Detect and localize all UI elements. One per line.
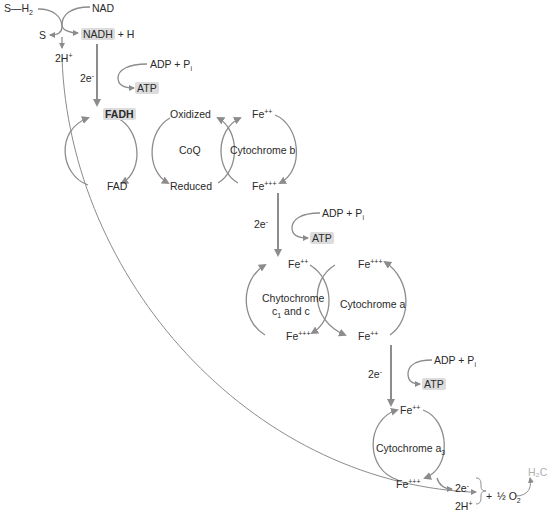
- nadh-label: NADH + H: [81, 28, 134, 40]
- cyt-b-bottom-label: Fe+++: [252, 180, 277, 192]
- fadh-label: FADH: [103, 108, 136, 120]
- adp-label-1: ADP + Pi: [150, 58, 192, 70]
- coq-oxidized-label: Oxidized: [170, 108, 211, 120]
- final-electrons-label: 2e-: [455, 482, 469, 494]
- cyt-a3-bottom-label: Fe+++: [396, 478, 421, 490]
- cyt-c-bottom-label: Fe+++: [286, 330, 311, 342]
- atp-label-3: ATP: [422, 378, 446, 390]
- electrons-label-1: 2e-: [80, 72, 94, 84]
- cyt-a3-label: Cytochrome a3: [376, 442, 445, 454]
- cyt-b-top-label: Fe++: [252, 108, 272, 120]
- substrate-label: S—H2: [4, 2, 33, 14]
- cyt-a-label: Cytochrome a: [340, 298, 405, 310]
- cyt-a-bottom-label: Fe++: [358, 330, 378, 342]
- cyt-b-label: Cytochrome b: [230, 144, 295, 156]
- adp-label-2: ADP + Pi: [322, 207, 364, 219]
- electrons-label-3: 2e-: [368, 368, 382, 380]
- coq-reduced-label: Reduced: [170, 180, 212, 192]
- cyt-c-top-label: Fe++: [288, 258, 308, 270]
- fad-label: FAD: [107, 180, 127, 192]
- oxygen-label: ½ O2: [497, 490, 521, 502]
- coq-label: CoQ: [179, 144, 201, 156]
- nad-label: NAD: [92, 2, 114, 14]
- oxidized-substrate-label: S: [39, 29, 46, 41]
- cyt-c-label: Chytochrome: [262, 292, 324, 304]
- adp-label-3: ADP + Pi: [434, 354, 476, 366]
- water-label: H₂C: [528, 466, 547, 478]
- cyt-c-label-line2: c1 and c: [272, 305, 310, 317]
- atp-label-2: ATP: [310, 232, 334, 244]
- cyt-a-top-label: Fe+++: [358, 258, 383, 270]
- cyt-a3-top-label: Fe++: [400, 404, 420, 416]
- electrons-label-2: 2e-: [254, 218, 268, 230]
- plus-sign: +: [486, 490, 492, 502]
- atp-label-1: ATP: [135, 82, 159, 94]
- final-protons-label: 2H+: [455, 500, 473, 512]
- protons-label: 2H+: [55, 52, 73, 64]
